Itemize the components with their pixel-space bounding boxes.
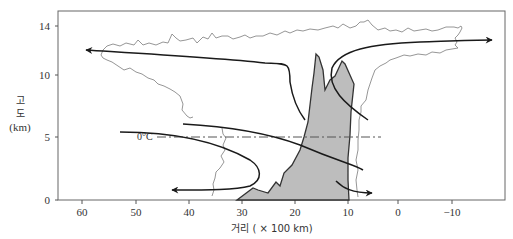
cloud-outline-lower-left	[101, 46, 193, 118]
x-tick-10: 10	[343, 206, 355, 218]
cloud-outline-left-body	[212, 128, 226, 196]
y-tick-10: 10	[39, 69, 51, 81]
x-tick-minus10: −10	[443, 206, 461, 218]
x-tick-60: 60	[77, 206, 89, 218]
thunderstorm-diagram: 0 5 10 14 고 도 (km) 60 50 40 30 20 10 0 −…	[0, 0, 513, 239]
y-tick-14: 14	[39, 20, 51, 32]
y-tick-0: 0	[45, 194, 51, 206]
outflow-arrow-upper-left	[86, 50, 290, 82]
y-axis-title-line1: 고	[16, 95, 25, 106]
cloud-outline	[107, 20, 462, 197]
inflow-curve-upper	[290, 82, 305, 120]
outflow-arrow-upper-right	[331, 40, 492, 120]
x-tick-0: 0	[395, 206, 401, 218]
y-axis-title-line2: 도	[16, 108, 25, 119]
y-tick-5: 5	[45, 131, 51, 143]
x-tick-30: 30	[237, 206, 249, 218]
x-tick-20: 20	[290, 206, 302, 218]
plot-frame	[58, 11, 505, 200]
x-axis-title: 거리 ( × 100 km)	[231, 223, 313, 234]
x-tick-50: 50	[131, 206, 143, 218]
y-axis-title-unit: (km)	[9, 121, 31, 134]
x-tick-40: 40	[184, 206, 196, 218]
updraft-core	[237, 54, 354, 200]
